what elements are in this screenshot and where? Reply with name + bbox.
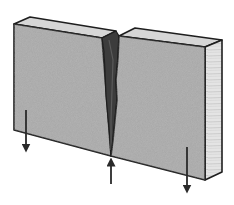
right-block [111,28,222,180]
fault-block-diagram [0,0,234,205]
right-block-side-face [205,40,222,180]
left-block [14,17,116,156]
